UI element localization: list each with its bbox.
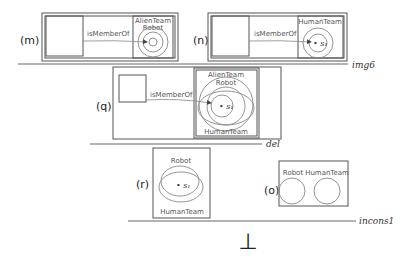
panel-n-source-box — [212, 16, 249, 56]
panel-r: (r) Robot • s₁ HumanTeam — [136, 148, 210, 218]
panel-o-robot-label: Robot — [283, 169, 304, 177]
panel-q-outer-box — [113, 67, 281, 139]
panel-r-robot-label: Robot — [171, 157, 192, 165]
panel-n-label: (n) — [193, 34, 209, 47]
panel-q-humanteam-label: HumanTeam — [204, 128, 248, 136]
panel-q-robot-label: Robot — [216, 79, 237, 87]
panel-m-source-box — [46, 16, 83, 56]
panel-o-humanteam-label: HumanTeam — [305, 169, 349, 177]
panel-r-humanteam-label: HumanTeam — [160, 208, 204, 216]
panel-m-inner-circle — [149, 38, 157, 46]
panel-q-alienteam-label: AlienTeam — [208, 71, 244, 79]
rule-label-del: del — [266, 139, 280, 149]
panel-m: (m) AlienTeam Robot isMemberOf — [20, 13, 178, 61]
panel-o-robot-circle — [279, 178, 305, 204]
rule-label-img6: img6 — [352, 60, 375, 70]
panel-q-element: • s₁ — [219, 102, 234, 111]
panel-m-arrow — [83, 41, 147, 42]
panel-q-edge-label: isMemberOf — [150, 91, 193, 99]
panel-r-label: (r) — [136, 178, 149, 191]
panel-m-edge-label: isMemberOf — [87, 30, 130, 38]
panel-r-element: • s₁ — [176, 181, 191, 190]
panel-o: (o) Robot HumanTeam — [264, 161, 349, 206]
panel-n-humanteam-label: HumanTeam — [298, 18, 342, 26]
panel-o-label: (o) — [264, 184, 279, 197]
panel-m-label: (m) — [20, 34, 39, 47]
panel-q: (q) AlienTeam Robot • s₁ HumanTeam isMem… — [96, 67, 281, 139]
panel-m-robot-label: Robot — [143, 24, 164, 32]
panel-o-humanteam-circle — [314, 178, 340, 204]
diagram: (m) AlienTeam Robot isMemberOf (n) Human… — [0, 0, 405, 259]
rule-label-incons1: incons1 — [359, 216, 394, 226]
panel-n: (n) HumanTeam • s₁ isMemberOf — [193, 13, 347, 61]
bottom-symbol: ⊥ — [238, 229, 257, 254]
panel-q-source-box — [119, 75, 146, 102]
panel-n-edge-label: isMemberOf — [254, 30, 297, 38]
panel-q-label: (q) — [96, 100, 112, 113]
panel-n-element: • s₁ — [313, 39, 328, 48]
panel-n-arrow — [249, 41, 311, 42]
